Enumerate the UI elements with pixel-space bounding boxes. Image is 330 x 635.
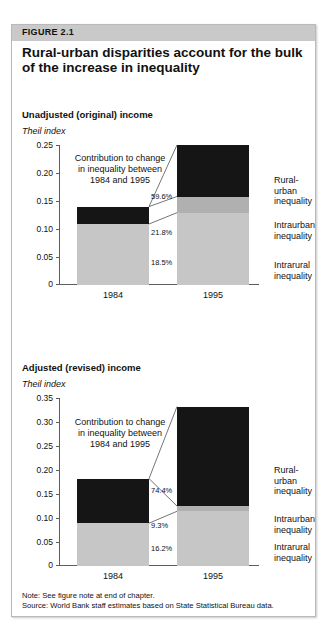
legend-text: Intrarural	[274, 542, 312, 553]
chart1-legend-intrarural: Intrarural inequality	[274, 260, 312, 281]
chart2-pct-intrarural: 16.2%	[151, 544, 172, 553]
chart2-pct-rural-urban: 74.4%	[151, 486, 172, 495]
legend-text: inequality	[274, 196, 315, 207]
figure-title: Rural-urban disparities account for the …	[22, 45, 307, 75]
legend-text: Intraurban	[274, 514, 315, 525]
legend-text: inequality	[274, 271, 312, 282]
legend-text: inequality	[274, 231, 315, 242]
chart1-callout: Contribution to change in inequality bet…	[65, 153, 175, 186]
chart2-ytick-label: 0.15	[23, 489, 53, 499]
chart1-ytick-label: 0.15	[23, 196, 53, 206]
legend-text: Intrarural	[274, 260, 312, 271]
chart1-xtick-1995: 1995	[163, 290, 263, 300]
chart1-subtitle: Unadjusted (original) income	[22, 109, 153, 120]
chart2-legend-rural-urban: Rural-urban inequality	[274, 465, 315, 497]
chart1-xtick-1984: 1984	[63, 290, 163, 300]
chart1-legend-intraurban: Intraurban inequality	[274, 220, 315, 241]
chart2-xtick-1995: 1995	[163, 571, 263, 581]
chart1-pct-intrarural: 18.5%	[151, 258, 172, 267]
legend-text: inequality	[274, 525, 315, 536]
chart2-pct-intraurban: 9.3%	[151, 521, 168, 530]
chart2-callout-line2: in inequality between	[65, 428, 175, 439]
chart1-ytick-label: 0.05	[23, 252, 53, 262]
chart2-ytick-label: 0.25	[23, 441, 53, 451]
chart2-legend-intrarural: Intrarural inequality	[274, 542, 312, 563]
legend-text: Rural-urban	[274, 175, 315, 196]
figure-box: FIGURE 2.1 Rural-urban disparities accou…	[11, 24, 316, 617]
chart2-ytick-label: 0.05	[23, 537, 53, 547]
chart2-ytick-label: 0.10	[23, 513, 53, 523]
chart2-legend-intraurban: Intraurban inequality	[274, 514, 315, 535]
chart1-callout-line2: in inequality between	[65, 164, 175, 175]
chart1-ytick-label: 0	[23, 279, 53, 289]
figure-note: Note: See figure note at end of chapter.	[22, 591, 155, 601]
chart2-xtick-1984: 1984	[63, 571, 163, 581]
chart1-callout-line3: 1984 and 1995	[65, 175, 175, 186]
legend-text: inequality	[274, 486, 315, 497]
legend-text: Rural-urban	[274, 465, 315, 486]
chart2-callout-line1: Contribution to change	[65, 417, 175, 428]
chart2-ylabel: Theil index	[22, 379, 66, 389]
chart2-callout-line3: 1984 and 1995	[65, 439, 175, 450]
chart1-pct-intraurban: 21.8%	[151, 228, 172, 237]
chart1-pct-rural-urban: 59.6%	[151, 192, 172, 201]
chart2-subtitle: Adjusted (revised) income	[22, 362, 141, 373]
chart2-ytick-label: 0.35	[23, 393, 53, 403]
chart2-ytick-label: 0.20	[23, 465, 53, 475]
legend-text: inequality	[274, 553, 312, 564]
chart1-ytick-label: 0.20	[23, 168, 53, 178]
chart1-ytick-label: 0.10	[23, 224, 53, 234]
figure-label: FIGURE 2.1	[22, 27, 74, 37]
chart2-callout: Contribution to change in inequality bet…	[65, 417, 175, 450]
chart1-legend-rural-urban: Rural-urban inequality	[274, 175, 315, 207]
chart1-ytick-label: 0.25	[23, 140, 53, 150]
chart2-ytick-label: 0	[23, 560, 53, 570]
legend-text: Intraurban	[274, 220, 315, 231]
chart1-callout-line1: Contribution to change	[65, 153, 175, 164]
chart1-ylabel: Theil index	[22, 126, 66, 136]
figure-source: Source: World Bank staff estimates based…	[22, 601, 274, 611]
chart2-ytick-label: 0.30	[23, 417, 53, 427]
